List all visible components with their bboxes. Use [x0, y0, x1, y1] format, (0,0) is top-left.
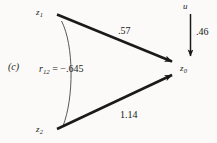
node-label-u: u: [183, 2, 188, 11]
correlation-symbol-subscript: 12: [43, 68, 50, 75]
node-label-z0-subscript: 0: [184, 67, 187, 74]
correlation-label: r12 = −.645: [39, 64, 83, 74]
node-label-z1-subscript: 1: [40, 11, 43, 18]
node-label-z2-subscript: 2: [40, 128, 43, 135]
figure-canvas: (c) z1 z2 z0 u .57 1.14 .46 r12 = −.645: [0, 0, 217, 143]
path-arrow-z2-to-z0: [57, 75, 172, 129]
path-arrow-z1-to-z0: [57, 15, 172, 62]
path-coefficient-z2-z0: 1.14: [120, 110, 138, 120]
node-label-z1: z1: [36, 8, 43, 17]
path-coefficient-z1-z0: .57: [118, 26, 131, 36]
path-coefficient-u-z0: .46: [196, 27, 209, 37]
node-label-z0: z0: [180, 64, 187, 73]
correlation-symbol: r12: [39, 63, 50, 74]
panel-identifier: (c): [8, 62, 19, 72]
correlation-value: −.645: [60, 63, 83, 74]
node-label-u-base: u: [183, 1, 188, 11]
node-label-z2: z2: [36, 125, 43, 134]
